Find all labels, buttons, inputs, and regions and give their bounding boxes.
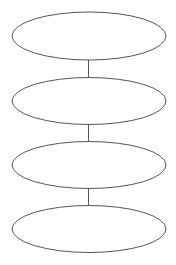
vertical-chain-diagram — [0, 0, 176, 265]
ellipse-shape-3 — [12, 142, 166, 189]
ellipse-node-3[interactable] — [12, 142, 166, 189]
ellipse-node-4[interactable] — [12, 206, 166, 253]
diagram-canvas — [0, 0, 176, 265]
ellipse-shape-1 — [12, 12, 166, 60]
ellipse-node-1[interactable] — [12, 12, 166, 60]
ellipse-shape-2 — [12, 78, 166, 125]
ellipse-shape-4 — [12, 206, 166, 253]
ellipse-node-2[interactable] — [12, 78, 166, 125]
